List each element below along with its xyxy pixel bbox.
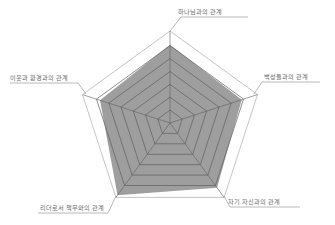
radar-chart: 하나님과의 관계 백성들과의 관계 자기 자신과의 관계 리더로서 책무와의 관… (0, 0, 335, 225)
axis-label-0: 하나님과의 관계 (178, 8, 222, 16)
axis-label-2: 자기 자신과의 관계 (228, 198, 280, 206)
leader-line-1 (254, 82, 320, 94)
leader-line-0 (170, 17, 248, 31)
axis-label-4: 이웃과 환경과의 관계 (10, 74, 68, 82)
axis-label-3: 리더로서 책무와의 관계 (40, 204, 104, 212)
axis-label-1: 백성들과의 관계 (264, 73, 308, 81)
leader-line-4 (10, 83, 86, 94)
